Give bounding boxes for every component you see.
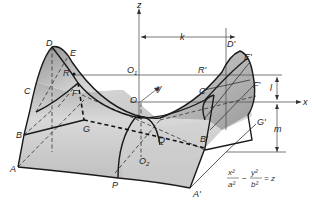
- label-q: Q: [158, 135, 165, 145]
- eq-term1-numerator: x²: [227, 168, 235, 177]
- y-axis-label: y: [156, 83, 162, 93]
- y-axis: [139, 89, 157, 103]
- label-a: A: [9, 164, 16, 174]
- eq-term2-numerator: y²: [250, 168, 258, 177]
- label-b: B: [16, 130, 22, 140]
- m-label: m: [274, 124, 282, 134]
- label-e: E: [70, 48, 77, 58]
- label-g: G: [83, 124, 90, 134]
- label-d-prime: D': [227, 39, 235, 49]
- label-c: C: [24, 86, 31, 96]
- k-arrow-left-icon: [141, 35, 146, 39]
- label-f-prime: F': [253, 80, 260, 90]
- eq-minus: −: [242, 174, 247, 183]
- hyperbolic-paraboloid-diagram: z k x y l m: [0, 0, 312, 206]
- x-axis-label: x: [302, 97, 308, 107]
- k-label: k: [180, 32, 185, 42]
- label-o: O: [130, 95, 137, 105]
- saddle-surface-front: [118, 122, 205, 188]
- label-p: P: [112, 180, 118, 190]
- l-arrow-top-icon: [275, 77, 279, 82]
- l-label: l: [270, 83, 273, 93]
- label-b-prime: B': [200, 134, 208, 144]
- eq-term2-denominator: b²: [251, 180, 258, 189]
- label-r: R: [63, 68, 70, 78]
- label-e-prime: E': [244, 52, 252, 62]
- eq-term1-denominator: a²: [228, 180, 235, 189]
- point-r-marker: [72, 72, 75, 75]
- z-axis-label: z: [136, 0, 142, 10]
- label-c-prime: C': [199, 86, 207, 96]
- label-f: F: [72, 88, 78, 98]
- m-arrow-bottom-icon: [275, 147, 279, 152]
- m-arrow-top-icon: [275, 104, 279, 109]
- l-arrow-bottom-icon: [275, 95, 279, 100]
- label-a-prime: A': [192, 189, 201, 199]
- label-o1: O1: [127, 65, 137, 76]
- x-axis-arrow-icon: [296, 100, 302, 104]
- label-g-prime: G': [257, 117, 266, 127]
- label-r-prime: R': [198, 65, 206, 75]
- label-d: D: [46, 38, 53, 48]
- eq-rhs: = z: [264, 174, 275, 183]
- point-o-marker: [137, 115, 140, 118]
- equation: x² a² − y² b² = z: [227, 168, 275, 189]
